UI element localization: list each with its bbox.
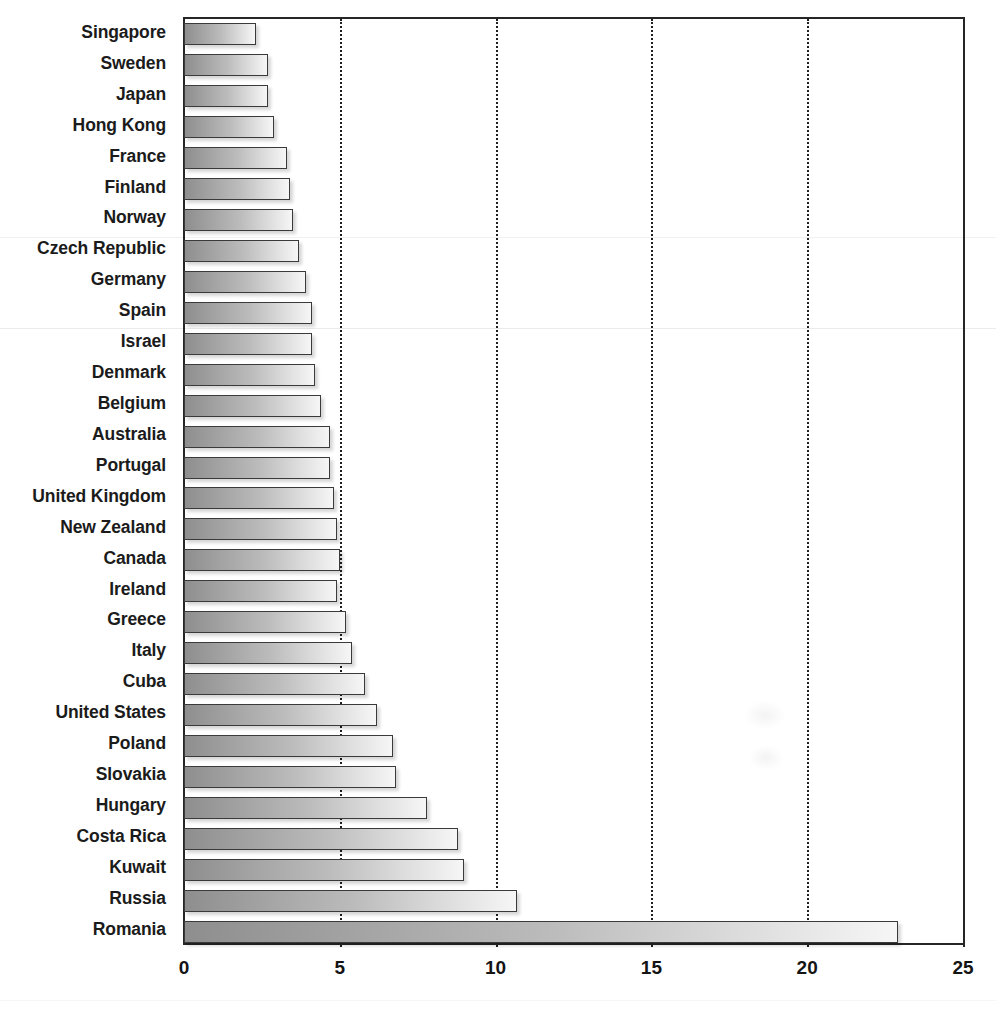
bar-row bbox=[184, 364, 963, 386]
bar-row bbox=[184, 890, 963, 912]
bar[interactable] bbox=[184, 704, 377, 726]
bar[interactable] bbox=[184, 240, 299, 262]
bar[interactable] bbox=[184, 23, 256, 45]
bar-row bbox=[184, 642, 963, 664]
bar[interactable] bbox=[184, 642, 352, 664]
bar-row bbox=[184, 580, 963, 602]
bar-row bbox=[184, 302, 963, 324]
bar[interactable] bbox=[184, 147, 287, 169]
y-axis-category-label: Costa Rica bbox=[0, 821, 176, 852]
x-axis-tick-label: 0 bbox=[179, 957, 190, 979]
y-axis-category-label: Israel bbox=[0, 326, 176, 357]
y-axis-category-label: Japan bbox=[0, 79, 176, 110]
bar-row bbox=[184, 333, 963, 355]
y-axis-category-label: Slovakia bbox=[0, 759, 176, 790]
y-axis-category-label: France bbox=[0, 141, 176, 172]
bar-row bbox=[184, 209, 963, 231]
y-axis-category-label: Cuba bbox=[0, 666, 176, 697]
bar[interactable] bbox=[184, 426, 330, 448]
bar-row bbox=[184, 116, 963, 138]
y-axis-category-label: Canada bbox=[0, 543, 176, 574]
scan-artifact-line bbox=[0, 1000, 996, 1001]
bar[interactable] bbox=[184, 766, 396, 788]
x-axis-tick-label: 10 bbox=[485, 957, 506, 979]
bar-row bbox=[184, 85, 963, 107]
bar-row bbox=[184, 240, 963, 262]
y-axis-category-label: Russia bbox=[0, 883, 176, 914]
bar[interactable] bbox=[184, 611, 346, 633]
bar[interactable] bbox=[184, 580, 337, 602]
bar-row bbox=[184, 23, 963, 45]
bar[interactable] bbox=[184, 518, 337, 540]
x-axis-tick-label: 25 bbox=[952, 957, 973, 979]
y-axis-category-label: United States bbox=[0, 697, 176, 728]
bar-row bbox=[184, 271, 963, 293]
y-axis-category-labels: SingaporeSwedenJapanHong KongFranceFinla… bbox=[0, 17, 176, 945]
y-axis-category-label: Greece bbox=[0, 605, 176, 636]
bar[interactable] bbox=[184, 271, 306, 293]
bar-row bbox=[184, 395, 963, 417]
y-axis-category-label: Czech Republic bbox=[0, 233, 176, 264]
y-axis-category-label: Germany bbox=[0, 264, 176, 295]
bar[interactable] bbox=[184, 395, 321, 417]
bar-row bbox=[184, 859, 963, 881]
y-axis-category-label: Italy bbox=[0, 635, 176, 666]
bar[interactable] bbox=[184, 209, 293, 231]
x-axis-tick-label: 15 bbox=[641, 957, 662, 979]
bar[interactable] bbox=[184, 735, 393, 757]
y-axis-category-label: Kuwait bbox=[0, 852, 176, 883]
y-axis-category-label: Finland bbox=[0, 172, 176, 203]
bar-row bbox=[184, 611, 963, 633]
bar[interactable] bbox=[184, 890, 517, 912]
x-axis-tick-label: 20 bbox=[797, 957, 818, 979]
bar-chart-figure: SingaporeSwedenJapanHong KongFranceFinla… bbox=[0, 0, 996, 1015]
bar[interactable] bbox=[184, 333, 312, 355]
y-axis-category-label: Hong Kong bbox=[0, 110, 176, 141]
bar[interactable] bbox=[184, 85, 268, 107]
bar[interactable] bbox=[184, 178, 290, 200]
bar[interactable] bbox=[184, 859, 464, 881]
bar[interactable] bbox=[184, 302, 312, 324]
bar-row bbox=[184, 828, 963, 850]
y-axis-category-label: Sweden bbox=[0, 48, 176, 79]
x-axis-tick-labels: 0510152025 bbox=[0, 957, 996, 991]
bar-row bbox=[184, 487, 963, 509]
y-axis-category-label: Belgium bbox=[0, 388, 176, 419]
y-axis-category-label: Australia bbox=[0, 419, 176, 450]
bar-row bbox=[184, 549, 963, 571]
y-axis-category-label: Denmark bbox=[0, 357, 176, 388]
y-axis-category-label: New Zealand bbox=[0, 512, 176, 543]
bar[interactable] bbox=[184, 364, 315, 386]
plot-area bbox=[184, 17, 965, 947]
bar[interactable] bbox=[184, 116, 274, 138]
bar-row bbox=[184, 426, 963, 448]
bar[interactable] bbox=[184, 54, 268, 76]
bar[interactable] bbox=[184, 797, 427, 819]
bar[interactable] bbox=[184, 487, 334, 509]
bar-row bbox=[184, 704, 963, 726]
bar-row bbox=[184, 766, 963, 788]
bar-row bbox=[184, 518, 963, 540]
bar[interactable] bbox=[184, 673, 365, 695]
x-axis-tick-label: 5 bbox=[335, 957, 346, 979]
y-axis-category-label: United Kingdom bbox=[0, 481, 176, 512]
y-axis-category-label: Romania bbox=[0, 914, 176, 945]
bar-row bbox=[184, 921, 963, 943]
bar[interactable] bbox=[184, 921, 898, 943]
bar-row bbox=[184, 735, 963, 757]
y-axis-category-label: Poland bbox=[0, 728, 176, 759]
bar-row bbox=[184, 178, 963, 200]
y-axis-category-label: Ireland bbox=[0, 574, 176, 605]
bar[interactable] bbox=[184, 457, 330, 479]
y-axis-category-label: Spain bbox=[0, 295, 176, 326]
bar[interactable] bbox=[184, 828, 458, 850]
bar-row bbox=[184, 457, 963, 479]
y-axis-category-label: Norway bbox=[0, 203, 176, 234]
y-axis-category-label: Hungary bbox=[0, 790, 176, 821]
bar-row bbox=[184, 797, 963, 819]
y-axis-category-label: Singapore bbox=[0, 17, 176, 48]
bar-row bbox=[184, 147, 963, 169]
y-axis-category-label: Portugal bbox=[0, 450, 176, 481]
bar[interactable] bbox=[184, 549, 340, 571]
bar-row bbox=[184, 54, 963, 76]
